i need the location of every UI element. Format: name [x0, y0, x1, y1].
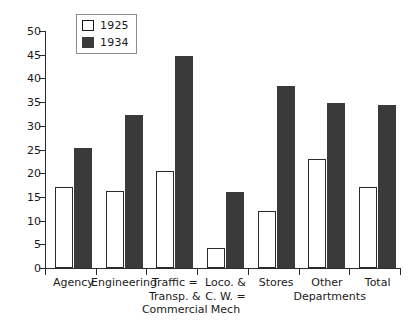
bar-1925-6: [359, 187, 377, 268]
bar-1925-2: [156, 171, 174, 268]
y-axis-tick-label: 45: [27, 49, 41, 60]
x-axis-label-6: Total: [344, 276, 411, 290]
y-axis-line: [45, 31, 46, 269]
x-axis-tick: [146, 269, 147, 275]
x-axis-tick: [349, 269, 350, 275]
bar-1934-4: [277, 86, 295, 268]
x-axis-tick: [45, 269, 46, 275]
bar-1925-0: [55, 187, 73, 268]
bar-1925-4: [258, 211, 276, 268]
legend-swatch-1925-icon: [82, 20, 94, 31]
x-axis-line: [45, 268, 401, 269]
bar-1934-6: [378, 105, 396, 268]
bar-1934-2: [175, 56, 193, 268]
x-axis-tick: [96, 269, 97, 275]
bar-1925-5: [308, 159, 326, 268]
bar-chart: 1925 1934 05101520253035404550 AgencyEng…: [0, 0, 416, 333]
legend-entry-1934: 1934: [82, 36, 129, 49]
x-axis-tick: [197, 269, 198, 275]
bar-1934-5: [327, 103, 345, 268]
y-axis-tick-label: 10: [27, 215, 41, 226]
x-axis-tick: [299, 269, 300, 275]
y-axis-tick-label: 35: [27, 97, 41, 108]
bar-1925-3: [207, 248, 225, 268]
bar-1934-3: [226, 192, 244, 268]
bar-1925-1: [106, 191, 124, 268]
legend-label-1925: 1925: [100, 20, 129, 31]
plot-area: 05101520253035404550: [45, 31, 400, 268]
y-axis-tick-label: 15: [27, 191, 41, 202]
y-axis-tick-label: 5: [34, 239, 41, 250]
x-axis-tick: [400, 269, 401, 275]
legend-label-1934: 1934: [100, 37, 129, 48]
legend-entry-1925: 1925: [82, 19, 129, 32]
y-axis-tick-label: 20: [27, 168, 41, 179]
y-axis-tick-label: 50: [27, 26, 41, 37]
y-axis-tick-label: 25: [27, 144, 41, 155]
x-axis-tick: [248, 269, 249, 275]
y-axis-tick-label: 40: [27, 73, 41, 84]
chart-legend: 1925 1934: [76, 14, 137, 54]
legend-swatch-1934-icon: [82, 37, 94, 48]
y-axis-tick-label: 0: [34, 263, 41, 274]
bar-1934-1: [125, 115, 143, 268]
bar-1934-0: [74, 148, 92, 268]
y-axis-tick-label: 30: [27, 120, 41, 131]
